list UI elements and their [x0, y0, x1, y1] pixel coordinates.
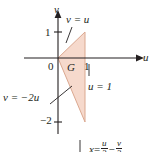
boundary-label-u-equals-1: u = 1	[88, 81, 112, 92]
formula-term-1-denominator: 3	[101, 149, 108, 152]
origin-label-0: 0	[48, 61, 54, 72]
formula-term-1: u3	[101, 139, 108, 152]
formula-operator: −	[109, 143, 115, 152]
boundary-label-v-equals-minus-2u: v = −2u	[3, 92, 39, 103]
u-axis-label: u	[143, 52, 149, 63]
formula-equals: =	[94, 143, 100, 152]
formula-term-2-denominator: 3	[116, 149, 123, 152]
formula-term-2: v3	[116, 139, 123, 152]
formula-term-2-numerator: v	[116, 139, 123, 148]
boundary-label-v-equals-u: v = u	[66, 14, 89, 25]
leader-line-v-equals-neg2u	[50, 86, 72, 104]
region-g-shape	[58, 32, 85, 122]
region-label-g: G	[67, 62, 75, 73]
v-axis-tick-label-minus-2: −2	[40, 115, 52, 126]
v-axis-label: v	[54, 4, 59, 15]
transform-formula-x: x=u3−v3	[89, 139, 123, 152]
leader-line-v-equals-u	[66, 27, 72, 43]
formula-term-1-numerator: u	[101, 139, 108, 148]
figure-uv-plane-region-g: v u 1 −2 0 1 G v = u u = 1 v = −2u x=u3−…	[0, 0, 154, 152]
v-axis-tick-label-1: 1	[45, 27, 51, 38]
u-axis-tick-label-1: 1	[84, 61, 90, 72]
